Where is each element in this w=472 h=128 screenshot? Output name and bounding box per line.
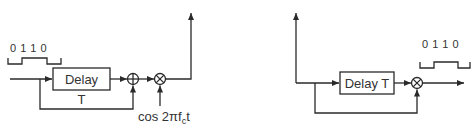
delay-t-label: Delay T bbox=[345, 76, 390, 91]
delay-label: Delay bbox=[65, 72, 99, 87]
input-bit-waveform: 0 1 1 0 bbox=[8, 42, 61, 64]
input-pulse bbox=[8, 58, 61, 64]
modulator-output-line bbox=[166, 13, 192, 79]
output-bits-label: 0 1 1 0 bbox=[422, 38, 459, 50]
modulator-diagram: 0 1 1 0 Delay T cos bbox=[8, 13, 191, 126]
delay-block-right: Delay T bbox=[340, 72, 394, 94]
multiplier-icon-right bbox=[412, 78, 423, 89]
adder-icon bbox=[128, 74, 139, 85]
output-bit-waveform: 0 1 1 0 bbox=[420, 38, 470, 68]
input-bits-label: 0 1 1 0 bbox=[10, 42, 47, 54]
carrier-label: cos 2πfct bbox=[138, 109, 190, 126]
delay-param-label: T bbox=[78, 92, 86, 107]
dpsk-diagrams: 0 1 1 0 Delay T cos bbox=[0, 0, 472, 128]
delay-block: Delay T bbox=[53, 68, 110, 107]
output-pulse bbox=[420, 62, 470, 68]
multiplier-icon bbox=[155, 74, 166, 85]
demodulator-diagram: Delay T 0 1 1 0 bbox=[296, 13, 470, 113]
